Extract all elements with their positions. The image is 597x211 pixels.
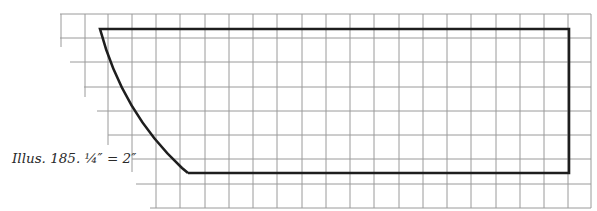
quarter-inch-grid	[60, 14, 591, 208]
hull-outline	[100, 29, 569, 173]
illustration-caption: Illus. 185. ¼″ = 2″	[12, 150, 136, 166]
grid-drawing	[0, 0, 597, 211]
caption-text: Illus. 185. ¼″ = 2″	[12, 150, 136, 166]
boat-hull-plan-diagram: Illus. 185. ¼″ = 2″	[0, 0, 597, 211]
